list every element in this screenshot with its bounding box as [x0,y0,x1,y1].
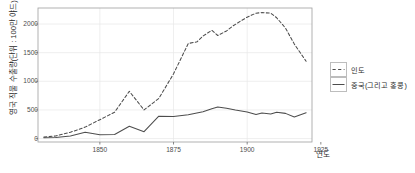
legend-label-india: 인도 [351,65,365,75]
panel-background [38,8,312,142]
legend-key-solid-icon [330,77,347,92]
legend-item-china[interactable]: 중국(그리고 홍콩) [330,77,414,92]
legend-key-dashed-icon [330,62,347,77]
legend-item-india[interactable]: 인도 [330,62,414,77]
x-axis-tick-label: 1850 [93,146,108,153]
x-axis-tick-label: 1900 [240,146,255,153]
x-axis-tick-label: 1925 [313,146,328,153]
chart-container: 영국 직물 수출량(단위 : 100만 야드) 0500100015002000… [0,0,415,173]
legend-label-china: 중국(그리고 홍콩) [351,80,407,90]
x-axis-tick-label: 1875 [166,146,181,153]
chart-legend: 인도 중국(그리고 홍콩) [330,62,414,92]
